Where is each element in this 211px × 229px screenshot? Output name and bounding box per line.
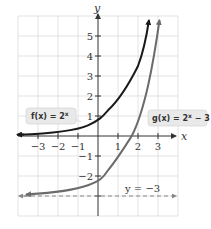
curve-g-line <box>28 20 160 194</box>
svg-text:−2: −2 <box>51 141 66 152</box>
svg-text:1: 1 <box>115 141 121 152</box>
svg-text:−3: −3 <box>31 141 46 152</box>
svg-text:5: 5 <box>87 31 93 42</box>
f-label-callout: f(x) = 2x <box>26 108 82 124</box>
svg-text:3: 3 <box>87 71 93 82</box>
svg-text:3: 3 <box>155 141 161 152</box>
svg-text:2: 2 <box>87 91 93 102</box>
svg-text:−2: −2 <box>78 171 93 182</box>
x-axis-label: x <box>181 130 188 143</box>
f-label-text: f(x) = 2 <box>31 112 65 121</box>
svg-text:−1: −1 <box>78 151 93 162</box>
y-axis-label: y <box>93 2 101 15</box>
asymptote-label: y = −3 <box>124 183 160 194</box>
svg-text:1: 1 <box>87 111 93 122</box>
svg-text:4: 4 <box>87 51 93 62</box>
svg-text:f(x) = 2x: f(x) = 2x <box>31 110 69 121</box>
g-label-text: g(x) = 2 <box>152 114 188 123</box>
exponential-graph: x y −3 −2 −1 1 2 3 5 4 3 2 1 −1 −2 y = −… <box>0 0 211 229</box>
svg-text:2: 2 <box>135 141 141 152</box>
svg-text:g(x) = 2x − 3: g(x) = 2x − 3 <box>152 112 210 123</box>
g-label-callout: g(x) = 2x − 3 <box>148 110 210 126</box>
